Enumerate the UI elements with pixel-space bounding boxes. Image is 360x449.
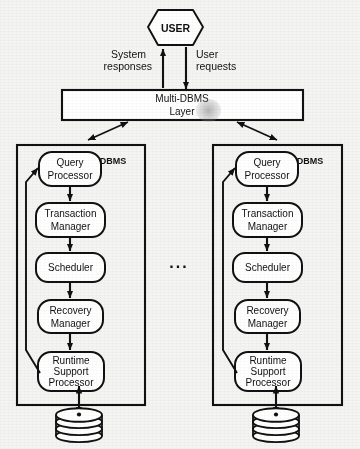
- multi-dbms-layer-label-line1: Multi-DBMS: [155, 93, 209, 104]
- dbms-right-query-processor-label-line2: Processor: [244, 170, 290, 181]
- dbms-right-title: DBMS: [297, 156, 324, 166]
- diagram-svg: USER System responses User requests Mult…: [0, 0, 360, 449]
- dbms-right-transaction-manager-label-line2: Manager: [248, 221, 288, 232]
- dbms-left-query-processor-label-line1: Query: [56, 157, 83, 168]
- dbms-left-scheduler-label: Scheduler: [48, 262, 94, 273]
- multi-dbms-layer-label-line2: Layer: [169, 106, 195, 117]
- dbms-left-query-processor-label-line2: Processor: [47, 170, 93, 181]
- dbms-left-title: DBMS: [100, 156, 127, 166]
- dbms-right-query-processor-label-line1: Query: [253, 157, 280, 168]
- user-node: USER: [148, 10, 203, 45]
- dbms-right-database-store: [253, 408, 299, 442]
- dbms-right-recovery-manager-label-line2: Manager: [248, 318, 288, 329]
- user-requests-label-line2: requests: [196, 60, 236, 72]
- dbms-left-runtime-support-processor-label-line1: Runtime: [52, 355, 90, 366]
- dbms-right-transaction-manager: Transaction Manager: [233, 203, 302, 237]
- user-requests-label-line1: User: [196, 48, 219, 60]
- dbms-left-recovery-manager: Recovery Manager: [38, 300, 103, 333]
- dbms-left-transaction-manager-label-line1: Transaction: [45, 208, 97, 219]
- dbms-left-query-processor: Query Processor: [39, 152, 101, 186]
- multi-dbms-layer-node: Multi-DBMS Layer: [62, 90, 303, 120]
- dbms-right-scheduler-label: Scheduler: [245, 262, 291, 273]
- dbms-right-scheduler: Scheduler: [233, 253, 302, 282]
- system-responses-label-line1: System: [111, 48, 146, 60]
- dbms-ellipsis: ...: [169, 254, 188, 271]
- dbms-left-runtime-support-processor-label-line3: Processor: [48, 377, 94, 388]
- dbms-left-transaction-manager-label-line2: Manager: [51, 221, 91, 232]
- diagram-canvas: USER System responses User requests Mult…: [0, 0, 360, 449]
- dbms-right-runtime-support-processor: Runtime Support Processor: [235, 352, 301, 391]
- dbms-right-recovery-manager: Recovery Manager: [235, 300, 300, 333]
- dbms-left-scheduler: Scheduler: [36, 253, 105, 282]
- dbms-left-container: DBMS Query Processor Transaction Manager…: [17, 145, 145, 414]
- dbms-right-container: DBMS Query Processor Transaction Manager…: [213, 145, 342, 414]
- dbms-right-runtime-support-processor-label-line3: Processor: [245, 377, 291, 388]
- dbms-left-database-store: [56, 408, 102, 442]
- layer-to-dbms-left-connector: [88, 122, 128, 140]
- dbms-right-runtime-support-processor-label-line1: Runtime: [249, 355, 287, 366]
- layer-to-dbms-right-connector: [237, 122, 277, 140]
- dbms-right-transaction-manager-label-line1: Transaction: [242, 208, 294, 219]
- system-responses-label-line2: responses: [104, 60, 152, 72]
- dbms-left-recovery-manager-label-line2: Manager: [51, 318, 91, 329]
- dbms-left-runtime-support-processor: Runtime Support Processor: [38, 352, 104, 391]
- dbms-right-query-processor: Query Processor: [236, 152, 298, 186]
- user-label: USER: [161, 22, 191, 34]
- dbms-right-runtime-support-processor-label-line2: Support: [250, 366, 285, 377]
- dbms-left-runtime-support-processor-label-line2: Support: [53, 366, 88, 377]
- dbms-left-recovery-manager-label-line1: Recovery: [49, 305, 91, 316]
- dbms-right-recovery-manager-label-line1: Recovery: [246, 305, 288, 316]
- dbms-left-transaction-manager: Transaction Manager: [36, 203, 105, 237]
